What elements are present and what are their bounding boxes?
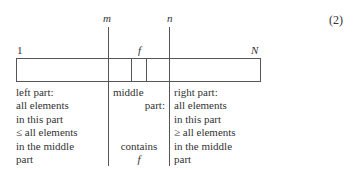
- middle-part-spacer: [113, 126, 165, 139]
- pointer-n-line: [169, 27, 170, 166]
- left-part-line: in the middle: [16, 140, 78, 153]
- left-part-line: part: [16, 153, 78, 166]
- right-part-line: part: [174, 153, 236, 166]
- left-part-line: ≤ all elements: [16, 126, 78, 139]
- element-f-right-border: [146, 58, 147, 82]
- right-part-description: right part: all elements in this part ≥ …: [174, 86, 236, 166]
- array-start-label: 1: [17, 45, 23, 56]
- middle-part-line: middle: [113, 86, 165, 99]
- element-f-left-border: [131, 58, 132, 82]
- array-end-label: N: [251, 45, 258, 56]
- middle-part-line: f: [113, 153, 165, 166]
- pointer-m-label: m: [103, 13, 111, 24]
- right-part-line: ≥ all elements: [174, 126, 236, 139]
- array-box: [16, 58, 261, 82]
- pointer-n-label: n: [167, 13, 173, 24]
- middle-part-line: contains: [113, 140, 165, 153]
- middle-part-description: middle part: contains f: [113, 86, 165, 166]
- left-part-line: left part:: [16, 86, 78, 99]
- left-part-line: all elements: [16, 99, 78, 112]
- right-part-line: in the middle: [174, 140, 236, 153]
- element-f-label: f: [138, 45, 141, 56]
- left-part-line: in this part: [16, 113, 78, 126]
- middle-part-line: part:: [113, 99, 165, 112]
- left-part-description: left part: all elements in this part ≤ a…: [16, 86, 78, 166]
- right-part-line: right part:: [174, 86, 236, 99]
- right-part-line: in this part: [174, 113, 236, 126]
- middle-part-spacer: [113, 113, 165, 126]
- right-part-line: all elements: [174, 99, 236, 112]
- pointer-m-line: [108, 27, 109, 166]
- equation-number: (2): [329, 13, 343, 28]
